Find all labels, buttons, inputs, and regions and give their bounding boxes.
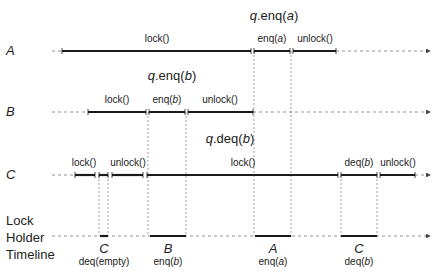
holder-thread-b: B <box>164 241 173 256</box>
b-unlock-label: unlock() <box>202 94 238 105</box>
c-unlock2-label: unlock() <box>380 157 416 168</box>
holder-op-a: enq(a) <box>259 256 288 267</box>
holder-op-c1: deq(empty) <box>79 256 130 267</box>
row-label-c: C <box>6 167 15 182</box>
holder-op-c2: deq(b) <box>345 256 374 267</box>
header-q-deq-b: q.deq(b) <box>206 131 254 146</box>
row-label-a: A <box>6 43 15 58</box>
lock-holder-timeline-label: Lock Holder Timeline <box>6 212 55 263</box>
a-lock-label: lock() <box>145 33 169 44</box>
c-lock1-label: lock() <box>72 157 96 168</box>
c-deq-label: deq(b) <box>345 157 374 168</box>
b-lock-label: lock() <box>105 94 129 105</box>
c-unlock1-label: unlock() <box>110 157 146 168</box>
a-enq-label: enq(a) <box>258 33 287 44</box>
holder-thread-c2: C <box>354 241 363 256</box>
b-enq-label: enq(b) <box>153 94 182 105</box>
a-unlock-label: unlock() <box>297 33 333 44</box>
holder-op-b: enq(b) <box>154 256 183 267</box>
header-q-enq-a: q.enq(a) <box>250 8 298 23</box>
holder-thread-a: A <box>269 241 278 256</box>
holder-thread-c1: C <box>99 241 108 256</box>
row-label-b: B <box>6 104 15 119</box>
c-lock2-label: lock() <box>231 157 255 168</box>
header-q-enq-b: q.enq(b) <box>148 68 196 83</box>
